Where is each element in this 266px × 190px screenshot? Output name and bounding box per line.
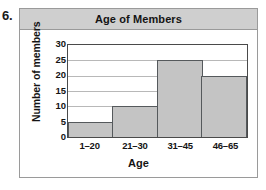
bar [112, 106, 158, 137]
x-axis-tick: 31–45 [158, 140, 203, 151]
chart-frame: Age of Members Number of members 3025201… [19, 8, 258, 178]
y-axis-tick: 0 [44, 132, 66, 142]
y-axis-tick: 15 [44, 86, 66, 96]
chart-title-band: Age of Members [20, 9, 257, 30]
x-axis-tick-labels: 1–2021–3031–4546–65 [67, 140, 248, 151]
problem-number: 6. [2, 8, 12, 23]
worksheet-problem: 6. Age of Members Number of members 3025… [0, 0, 266, 190]
bar-series [68, 45, 247, 137]
plot-area [67, 44, 248, 138]
y-axis-title: Number of members [30, 22, 42, 122]
bar [157, 60, 203, 137]
x-axis-tick: 21–30 [112, 140, 157, 151]
y-axis-tick: 5 [44, 117, 66, 127]
x-axis-tick: 46–65 [203, 140, 248, 151]
y-axis-tick: 25 [44, 55, 66, 65]
y-axis-tick-labels: 302520151050 [44, 39, 66, 142]
y-axis-tick: 30 [44, 39, 66, 49]
chart-title: Age of Members [95, 13, 182, 25]
x-axis-tick: 1–20 [67, 140, 112, 151]
bar [201, 76, 247, 137]
y-axis-tick: 20 [44, 70, 66, 80]
y-axis-tick: 10 [44, 101, 66, 111]
bar [68, 122, 114, 137]
x-axis-title: Age [20, 157, 257, 169]
